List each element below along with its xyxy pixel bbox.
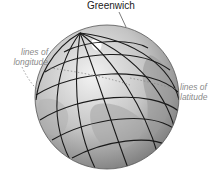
longitude-label: lines of longitude bbox=[8, 47, 48, 67]
globe-diagram: Greenwich lines of longitude lines of la… bbox=[0, 0, 214, 176]
latitude-label-line1: lines of bbox=[180, 82, 207, 92]
greenwich-label: Greenwich bbox=[87, 1, 135, 11]
greenwich-leader bbox=[119, 12, 126, 27]
longitude-label-line2: longitude bbox=[8, 57, 48, 67]
longitude-label-line1: lines of bbox=[8, 47, 48, 57]
latitude-label: lines of latitude bbox=[180, 82, 207, 102]
latitude-label-line2: latitude bbox=[180, 92, 207, 102]
